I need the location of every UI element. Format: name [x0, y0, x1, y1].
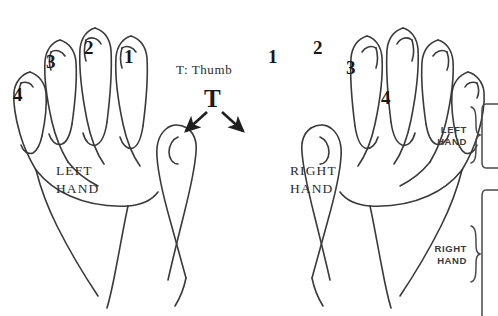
side-panel-box-left — [482, 104, 498, 168]
side-panel-box-right — [482, 190, 498, 316]
diagram-canvas: 4 3 2 1 1 2 3 4 T: Thumb T LEFT HAND RIG… — [0, 0, 498, 316]
side-panel-brace-left — [471, 107, 480, 163]
side-panel-graphics — [0, 0, 498, 316]
side-panel-brace-right — [471, 226, 480, 282]
